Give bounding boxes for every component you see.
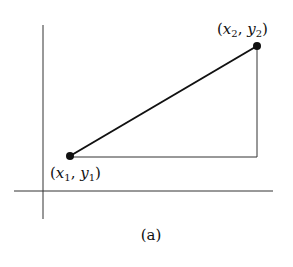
figure-caption: (a): [141, 226, 162, 244]
hypotenuse-segment: [70, 46, 257, 156]
diagram-canvas: (x2, y2) (x1, y1) (a): [0, 0, 293, 267]
point-1-dot: [66, 152, 74, 160]
point-2-dot: [253, 42, 261, 50]
point-2-label: (x2, y2): [217, 20, 268, 39]
point-1-label: (x1, y1): [50, 164, 101, 183]
